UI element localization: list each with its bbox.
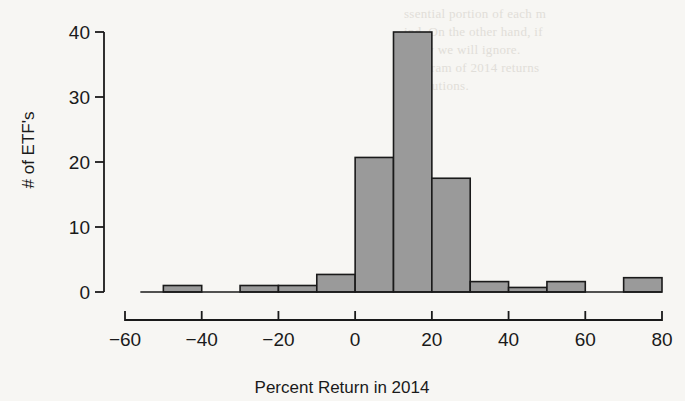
histogram-bar bbox=[470, 282, 508, 292]
histogram-bar bbox=[278, 286, 316, 293]
figure-canvas: ssential portion of each mind. On the ot… bbox=[0, 0, 685, 401]
histogram-bar bbox=[624, 278, 662, 292]
x-axis-tick-label: −40 bbox=[186, 329, 218, 350]
x-axis-title: Percent Return in 2014 bbox=[255, 378, 430, 397]
x-axis-tick-label: −60 bbox=[109, 329, 141, 350]
x-axis-tick-label: −20 bbox=[262, 329, 294, 350]
histogram-bars bbox=[163, 32, 662, 292]
y-axis-title: # of ETF's bbox=[19, 112, 38, 189]
y-axis-tick-label: 0 bbox=[79, 282, 90, 303]
histogram-bar bbox=[432, 178, 470, 292]
histogram-bar bbox=[547, 282, 585, 292]
y-axis-tick-label: 40 bbox=[69, 22, 90, 43]
histogram-bar bbox=[163, 286, 201, 293]
x-axis-tick-label: 20 bbox=[421, 329, 442, 350]
histogram-bar bbox=[355, 157, 393, 292]
x-axis-tick-label: 60 bbox=[575, 329, 596, 350]
histogram-chart: 010203040 −60−40−20020406080 Percent Ret… bbox=[0, 0, 685, 401]
x-axis-tick-label: 0 bbox=[350, 329, 361, 350]
histogram-bar bbox=[317, 274, 355, 292]
x-axis: −60−40−20020406080 bbox=[109, 311, 673, 350]
histogram-bar bbox=[394, 32, 432, 292]
histogram-bar bbox=[240, 286, 278, 293]
x-axis-tick-label: 80 bbox=[651, 329, 672, 350]
x-axis-tick-label: 40 bbox=[498, 329, 519, 350]
y-axis-tick-label: 20 bbox=[69, 152, 90, 173]
y-axis-tick-label: 30 bbox=[69, 87, 90, 108]
y-axis: 010203040 bbox=[69, 22, 104, 303]
y-axis-tick-label: 10 bbox=[69, 217, 90, 238]
